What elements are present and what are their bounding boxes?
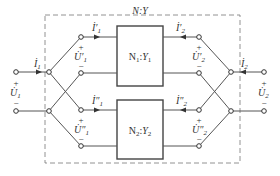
current-i1-label: İ1	[33, 58, 41, 71]
current-i1-prime-label: İ′1	[91, 22, 101, 35]
arrow-icon	[94, 108, 100, 113]
current-i1-double-prime-label: İ″1	[91, 95, 103, 108]
arrow-icon	[180, 108, 186, 113]
two-port-parallel-circuit: N:Y N1:Y1 N2:Y2	[0, 0, 280, 176]
arrow-icon	[180, 35, 186, 40]
minus-sign: −	[196, 134, 201, 144]
minus-sign: −	[261, 98, 266, 108]
current-i2-prime-label: İ′2	[175, 22, 186, 35]
minus-sign: −	[78, 134, 83, 144]
arrow-icon	[94, 35, 100, 40]
current-i2-double-prime-label: İ″2	[175, 95, 188, 108]
network-label: N:Y	[131, 5, 149, 16]
minus-sign: −	[78, 61, 83, 71]
minus-sign: −	[13, 98, 18, 108]
minus-sign: −	[196, 61, 201, 71]
current-i2-label: İ2	[240, 58, 248, 71]
